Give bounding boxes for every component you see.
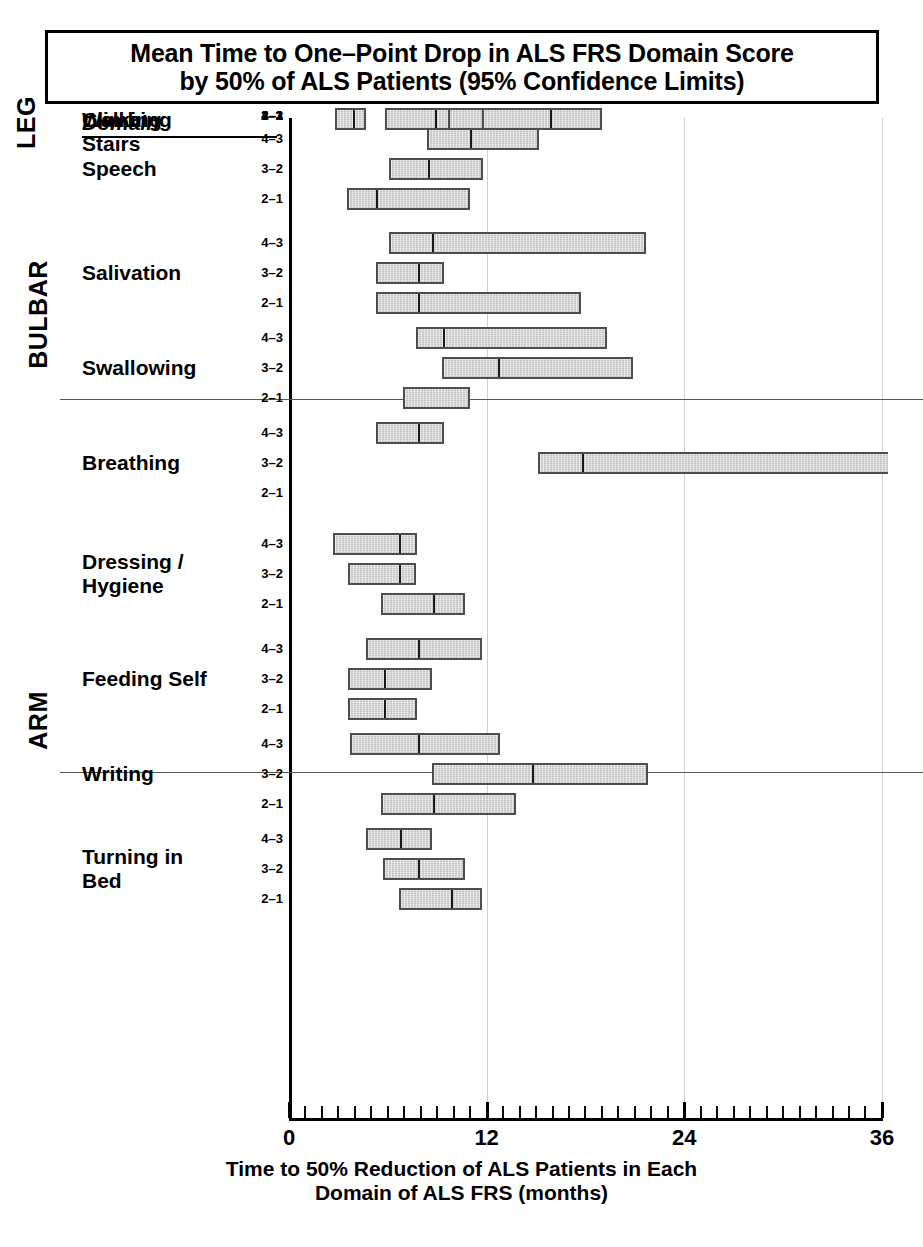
mean-marker [428, 160, 430, 178]
confidence-interval-bar [376, 292, 580, 314]
transition-label: 4–3 [243, 330, 283, 345]
mean-marker [400, 830, 402, 848]
transition-label: 4–3 [243, 641, 283, 656]
x-tick-minor [864, 1106, 866, 1118]
transition-label: 2–1 [243, 191, 283, 206]
mean-marker [433, 795, 435, 813]
confidence-interval-bar [348, 668, 432, 690]
confidence-interval-bar [366, 638, 481, 660]
x-tick-minor [601, 1106, 603, 1118]
confidence-interval-bar [376, 422, 444, 444]
x-tick-minor [420, 1106, 422, 1118]
mean-marker [435, 110, 437, 128]
x-tick-minor [387, 1106, 389, 1118]
x-tick-minor [617, 1106, 619, 1118]
transition-label: 4–3 [243, 736, 283, 751]
x-tick-major [486, 1102, 489, 1118]
x-axis-title-line-1: Time to 50% Reduction of ALS Patients in… [0, 1157, 923, 1181]
group-label-leg: LEG [12, 96, 41, 149]
transition-label: 4–3 [243, 536, 283, 551]
mean-marker [451, 890, 453, 908]
x-tick-label-0: 0 [283, 1125, 295, 1151]
transition-label: 4–3 [243, 831, 283, 846]
x-tick-label-24: 24 [672, 1125, 696, 1151]
confidence-interval-bar [381, 793, 516, 815]
domain-name: Salivation [82, 261, 282, 285]
gridline-36 [882, 118, 883, 1118]
transition-label: 2–1 [243, 796, 283, 811]
confidence-interval-bar [333, 533, 417, 555]
transition-label: 2–1 [243, 295, 283, 310]
confidence-interval-bar [348, 563, 416, 585]
x-tick-minor [634, 1106, 636, 1118]
confidence-interval-bar [538, 452, 888, 474]
mean-marker [443, 329, 445, 347]
chart-root: Mean Time to One–Point Drop in ALS FRS D… [0, 0, 923, 1247]
domain-name: Dressing /Hygiene [82, 550, 282, 597]
x-tick-minor [584, 1106, 586, 1118]
domain-name: Feeding Self [82, 667, 282, 691]
transition-label: 2–1 [243, 596, 283, 611]
x-tick-minor [667, 1106, 669, 1118]
x-tick-minor [354, 1106, 356, 1118]
confidence-interval-bar [482, 108, 602, 130]
x-tick-minor [469, 1106, 471, 1118]
confidence-interval-bar [427, 128, 539, 150]
x-tick-minor [552, 1106, 554, 1118]
confidence-interval-bar [389, 158, 483, 180]
confidence-interval-bar [376, 262, 444, 284]
y-axis-line [289, 118, 292, 1118]
mean-marker [418, 264, 420, 282]
mean-marker [433, 595, 435, 613]
domain-name: Writing [82, 762, 282, 786]
x-axis-title: Time to 50% Reduction of ALS Patients in… [0, 1157, 923, 1205]
x-tick-minor [832, 1106, 834, 1118]
plot-area: Domain 4–33–22–1Speech4–33–22–1Salivatio… [0, 108, 923, 1118]
mean-marker [470, 130, 472, 148]
confidence-interval-bar [381, 593, 465, 615]
domain-name: Speech [82, 157, 282, 181]
mean-marker [418, 860, 420, 878]
x-tick-minor [535, 1106, 537, 1118]
confidence-interval-bar [347, 188, 471, 210]
confidence-interval-bar [399, 888, 481, 910]
mean-marker [353, 110, 355, 128]
confidence-interval-bar [442, 357, 633, 379]
mean-marker [418, 294, 420, 312]
x-tick-minor [782, 1106, 784, 1118]
confidence-interval-bar [366, 828, 432, 850]
group-label-bulbar: BULBAR [24, 127, 53, 503]
transition-label: 2–1 [243, 701, 283, 716]
x-tick-minor [749, 1106, 751, 1118]
domain-name: Walking [82, 108, 282, 132]
confidence-interval-bar [403, 387, 471, 409]
x-tick-minor [766, 1106, 768, 1118]
confidence-interval-bar [432, 763, 648, 785]
x-tick-minor [716, 1106, 718, 1118]
x-axis-line [289, 1118, 883, 1121]
x-tick-minor [370, 1106, 372, 1118]
group-separator-1 [60, 399, 923, 400]
x-axis-title-line-2: Domain of ALS FRS (months) [0, 1181, 923, 1205]
mean-marker [550, 110, 552, 128]
x-tick-minor [519, 1106, 521, 1118]
x-tick-minor [436, 1106, 438, 1118]
chart-title-line-2: by 50% of ALS Patients (95% Confidence L… [180, 67, 745, 95]
transition-label: 2–1 [243, 390, 283, 405]
group-label-arm: ARM [24, 532, 53, 909]
mean-marker [384, 670, 386, 688]
x-tick-minor [799, 1106, 801, 1118]
domain-name: Breathing [82, 451, 282, 475]
x-tick-major [683, 1102, 686, 1118]
confidence-interval-bar [348, 698, 417, 720]
chart-title-line-1: Mean Time to One–Point Drop in ALS FRS D… [130, 39, 794, 67]
x-tick-minor [650, 1106, 652, 1118]
confidence-interval-bar [416, 327, 607, 349]
x-tick-minor [568, 1106, 570, 1118]
x-tick-minor [815, 1106, 817, 1118]
transition-label: 4–3 [243, 235, 283, 250]
mean-marker [399, 535, 401, 553]
x-tick-major [881, 1102, 884, 1118]
x-tick-minor [453, 1106, 455, 1118]
mean-marker [399, 565, 401, 583]
